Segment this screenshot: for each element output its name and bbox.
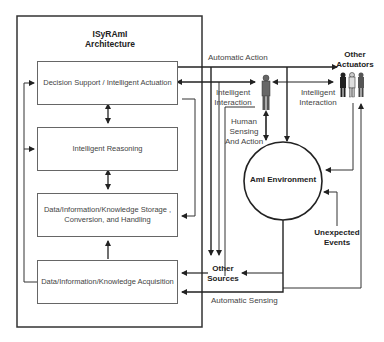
label-line: Unexpected: [310, 228, 364, 238]
human-icon: [262, 75, 270, 110]
module-label: Data/Information/Knowledge Acquisition: [41, 277, 174, 287]
human-sensing-label: Human Sensing And Action: [224, 117, 264, 147]
label-line: And Action: [224, 137, 264, 147]
other-actuators-label: Other Actuators: [335, 50, 375, 70]
label-line: Actuators: [335, 60, 375, 70]
label-line: Sensing: [224, 127, 264, 137]
unexpected-events-label: Unexpected Events: [310, 228, 364, 248]
automatic-action-label: Automatic Action: [208, 53, 268, 63]
module-label: Intelligent Reasoning: [72, 144, 142, 154]
label-line: Other: [205, 264, 241, 274]
other-sources-label: Other Sources: [205, 264, 241, 284]
intelligent-interaction-right-label: Intelligent Interaction: [296, 88, 340, 108]
label-line: Other: [335, 50, 375, 60]
label-line: Intelligent: [213, 88, 253, 98]
title-line-2: Architecture: [80, 39, 140, 49]
label-line: Interaction: [213, 98, 253, 108]
environment-label: AmI Environment: [248, 175, 318, 185]
label-line: Interaction: [296, 98, 340, 108]
module-storage[interactable]: Data/Information/Knowledge Storage , Con…: [37, 193, 178, 237]
module-label-line-1: Data/Information/Knowledge Storage ,: [44, 205, 171, 215]
module-decision-support[interactable]: Decision Support / Intelligent Actuation: [37, 61, 178, 105]
label-line: Events: [310, 238, 364, 248]
module-acquisition[interactable]: Data/Information/Knowledge Acquisition: [37, 260, 178, 304]
intelligent-interaction-left-label: Intelligent Interaction: [213, 88, 253, 108]
label-line: Human: [224, 117, 264, 127]
title-line-1: ISyRAmI: [80, 29, 140, 39]
module-label-line-2: Conversion, and Handling: [64, 215, 150, 225]
module-label: Decision Support / Intelligent Actuation: [43, 78, 171, 88]
automatic-sensing-label: Automatic Sensing: [211, 296, 278, 306]
label-line: Intelligent: [296, 88, 340, 98]
architecture-title: ISyRAmI Architecture: [80, 29, 140, 49]
label-line: Sources: [205, 274, 241, 284]
actuators-icon: [340, 73, 364, 98]
module-intelligent-reasoning[interactable]: Intelligent Reasoning: [37, 127, 178, 171]
